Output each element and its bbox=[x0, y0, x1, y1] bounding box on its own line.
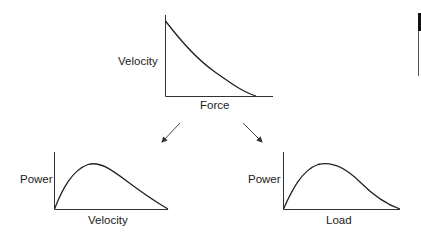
arrow-to-power-load bbox=[243, 123, 262, 142]
force-velocity-curve bbox=[166, 21, 257, 96]
power-velocity-chart bbox=[55, 152, 169, 210]
arrow-to-power-velocity bbox=[162, 123, 180, 142]
power-load-chart bbox=[284, 152, 401, 210]
force-velocity-chart bbox=[166, 15, 274, 97]
bl-y-label: Power bbox=[20, 173, 53, 185]
diagram-canvas bbox=[0, 0, 421, 238]
bl-x-label: Velocity bbox=[88, 214, 128, 226]
br-x-label: Load bbox=[326, 214, 352, 226]
br-y-label: Power bbox=[248, 173, 281, 185]
power-load-curve bbox=[284, 164, 401, 209]
top-x-label: Force bbox=[200, 99, 229, 111]
power-velocity-curve bbox=[55, 164, 169, 209]
top-y-label: Velocity bbox=[118, 55, 158, 67]
